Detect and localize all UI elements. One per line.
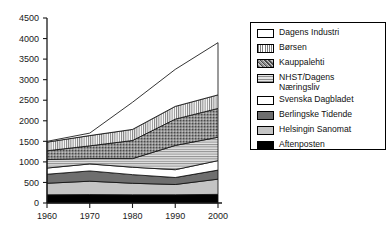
x-tick-label: 1960: [37, 211, 57, 221]
legend-item: Svenska Dagbladet: [257, 95, 354, 105]
x-tick-label: 2000: [208, 211, 228, 221]
legend-swatch-solid-white: [257, 29, 274, 38]
y-tick-label: 4000: [19, 34, 39, 44]
y-tick-label: 500: [24, 178, 39, 188]
legend-swatch-horizontal-lines: [257, 74, 274, 83]
area-band-0: [47, 194, 218, 203]
y-tick-label: 1000: [19, 157, 39, 167]
y-tick-label: 4500: [19, 13, 39, 23]
y-tick-label: 3000: [19, 75, 39, 85]
x-tick-label: 1990: [165, 211, 185, 221]
legend-label: Kauppalehti: [279, 58, 324, 68]
legend-swatch-solid-white: [257, 96, 274, 105]
legend-swatch-vertical-lines: [257, 44, 274, 53]
legend-swatch-solid-light-gray: [257, 126, 274, 135]
legend-label: Dagens Industri: [279, 28, 339, 38]
y-tick-label: 1500: [19, 137, 39, 147]
legend-label: Aftenposten: [279, 140, 325, 150]
legend-label: Børsen: [279, 43, 307, 53]
y-tick-label: 0: [34, 198, 39, 208]
y-axis-ticks: 050010001500200025003000350040004500: [19, 13, 47, 208]
legend-item: Kauppalehti: [257, 58, 324, 68]
legend-swatch-speckle: [257, 59, 274, 68]
legend-item: Helsingin Sanomat: [257, 125, 351, 135]
x-tick-label: 1970: [80, 211, 100, 221]
y-tick-label: 2000: [19, 116, 39, 126]
x-axis-ticks: 19601970198019902000: [37, 203, 228, 221]
legend-item: Børsen: [257, 43, 307, 53]
legend-item: NHST/Dagens Næringsliv: [257, 73, 334, 92]
chart-screenshot: 050010001500200025003000350040004500 196…: [0, 0, 388, 236]
legend-swatch-solid-dark-gray: [257, 111, 274, 120]
y-tick-label: 3500: [19, 54, 39, 64]
legend-label: Berlingske Tidende: [279, 110, 352, 120]
legend-label: NHST/Dagens Næringsliv: [279, 73, 334, 92]
chart-legend: Dagens IndustriBørsenKauppalehtiNHST/Dag…: [250, 22, 386, 150]
x-tick-label: 1980: [122, 211, 142, 221]
legend-label: Helsingin Sanomat: [279, 125, 351, 135]
y-tick-label: 2500: [19, 95, 39, 105]
legend-swatch-solid-black: [257, 141, 274, 150]
area-bands: [47, 43, 218, 203]
legend-item: Berlingske Tidende: [257, 110, 352, 120]
legend-label: Svenska Dagbladet: [279, 95, 354, 105]
legend-item: Aftenposten: [257, 140, 325, 150]
legend-item: Dagens Industri: [257, 28, 339, 38]
